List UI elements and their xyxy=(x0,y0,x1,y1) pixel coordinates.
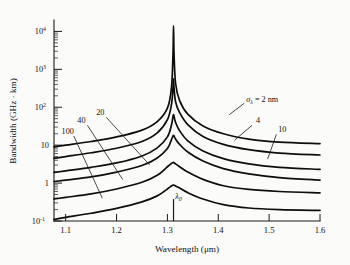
bandwidth-vs-wavelength-chart: 10410310210110-1 1.11.21.31.41.51.6 λ0 σ… xyxy=(0,0,350,265)
y-tick-group: 10410310210110-1 xyxy=(32,26,62,226)
y-tick-label: 10 xyxy=(41,141,49,150)
lambda-zero-marker: λ0 xyxy=(174,192,182,221)
sigma-lambda-label: σλ = 2 nm xyxy=(246,95,279,105)
x-tick-group: 1.11.21.31.41.51.6 xyxy=(60,214,326,235)
curve-label: 20 xyxy=(96,108,104,117)
curve-label: 4 xyxy=(256,116,260,125)
x-tick-label: 1.2 xyxy=(111,225,122,235)
bandwidth-curve xyxy=(54,79,320,158)
bandwidth-curve xyxy=(54,185,320,219)
y-tick-label: 102 xyxy=(35,102,46,112)
x-tick-label: 1.1 xyxy=(60,225,71,235)
curve-group xyxy=(54,26,320,220)
chart-figure: 10410310210110-1 1.11.21.31.41.51.6 λ0 σ… xyxy=(0,0,350,265)
x-tick-label: 1.3 xyxy=(162,225,173,235)
curve-label: 100 xyxy=(62,127,74,136)
y-tick-label: 103 xyxy=(35,64,46,74)
y-axis-title: Bandwidth (GHz · km) xyxy=(8,78,18,163)
curve-label: 10 xyxy=(278,125,286,134)
y-tick-label: 10-1 xyxy=(32,216,45,226)
x-tick-label: 1.5 xyxy=(264,225,275,235)
leader-line xyxy=(229,103,244,115)
x-tick-label: 1.6 xyxy=(315,225,326,235)
y-tick-label: 1 xyxy=(45,179,49,188)
leader-line xyxy=(268,134,277,159)
x-tick-label: 1.4 xyxy=(213,225,224,235)
curve-label: 40 xyxy=(77,116,85,125)
lambda-zero-label: λ0 xyxy=(174,192,182,202)
y-tick-label: 104 xyxy=(35,26,46,36)
x-axis-title: Wavelength (μm) xyxy=(155,244,219,254)
